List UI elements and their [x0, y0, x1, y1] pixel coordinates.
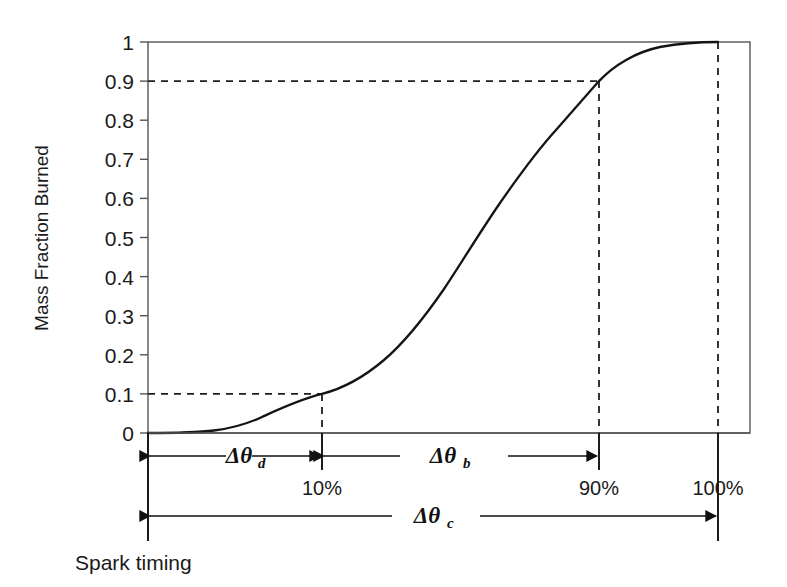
delta-theta-b-subscript: b: [463, 455, 471, 471]
mass-fraction-burned-figure: 1 0.9 0.8 0.7 0.6 0.5 0.4 0.3 0.2 0.1 0 …: [0, 0, 787, 587]
spark-timing-label: Spark timing: [75, 551, 192, 574]
delta-theta-b-annotation: Δθ b: [324, 443, 597, 471]
delta-theta-d-label: Δθ: [225, 443, 252, 468]
y-axis-title-text: Mass Fraction Burned: [31, 145, 52, 331]
y-axis-ticks: [140, 42, 148, 433]
y-tick-label: 0.1: [105, 383, 134, 406]
label-100-percent: 100%: [692, 477, 743, 499]
delta-theta-b-label: Δθ: [429, 443, 456, 468]
percent-labels: 10% 90% 100%: [302, 477, 744, 499]
spark-timing-caption: Spark timing: [75, 551, 192, 574]
y-tick-label: 0.4: [105, 266, 135, 289]
y-tick-label: 0.9: [105, 70, 134, 93]
y-tick-label: 1: [122, 31, 134, 54]
y-axis-tick-labels: 1 0.9 0.8 0.7 0.6 0.5 0.4 0.3 0.2 0.1 0: [105, 31, 135, 445]
guide-lines: [148, 42, 718, 433]
y-tick-label: 0.8: [105, 109, 134, 132]
y-axis-title: Mass Fraction Burned: [31, 145, 52, 331]
y-tick-label: 0.6: [105, 187, 134, 210]
label-90-percent: 90%: [579, 477, 619, 499]
label-10-percent: 10%: [302, 477, 342, 499]
y-tick-label: 0.3: [105, 305, 134, 328]
delta-theta-d-annotation: Δθ d: [150, 443, 320, 471]
y-tick-label: 0: [122, 422, 134, 445]
plot-frame: [148, 42, 750, 433]
delta-theta-c-subscript: c: [447, 515, 454, 531]
y-tick-label: 0.7: [105, 148, 134, 171]
delta-theta-d-subscript: d: [258, 455, 266, 471]
delta-theta-c-annotation: Δθ c: [150, 503, 716, 531]
y-tick-label: 0.5: [105, 227, 134, 250]
chart-svg: 1 0.9 0.8 0.7 0.6 0.5 0.4 0.3 0.2 0.1 0 …: [0, 0, 787, 587]
y-tick-label: 0.2: [105, 344, 134, 367]
delta-theta-c-label: Δθ: [413, 503, 440, 528]
mass-fraction-burned-curve: [148, 42, 718, 433]
